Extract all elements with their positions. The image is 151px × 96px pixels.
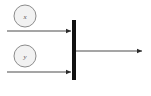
node-place-y[interactable]: y xyxy=(14,45,36,67)
diagram-svg: x y xyxy=(0,0,151,96)
diagram-canvas: x y xyxy=(0,0,151,96)
transition-bar[interactable] xyxy=(72,20,76,80)
node-place-x[interactable]: x xyxy=(14,5,36,27)
